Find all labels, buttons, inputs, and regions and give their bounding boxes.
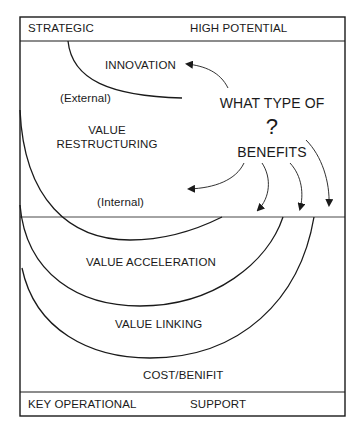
value-acceleration-label: VALUE ACCELERATION bbox=[86, 256, 216, 268]
high-potential-label: HIGH POTENTIAL bbox=[190, 22, 287, 34]
innovation-label: INNOVATION bbox=[105, 59, 176, 71]
external-label: (External) bbox=[60, 92, 111, 104]
arrow-to-innovation bbox=[187, 64, 228, 88]
key-operational-label: KEY OPERATIONAL bbox=[28, 398, 136, 410]
internal-label: (Internal) bbox=[97, 196, 144, 208]
question-line2: BENEFITS bbox=[237, 144, 306, 160]
arrow-to-value-linking bbox=[290, 163, 302, 209]
value-restructuring-label-line2: RESTRUCTURING bbox=[57, 138, 158, 150]
cost-benefit-label: COST/BENIFIT bbox=[143, 369, 223, 381]
arrow-to-cost-benefit bbox=[306, 140, 329, 205]
question-mark: ? bbox=[266, 114, 278, 140]
outer-frame bbox=[20, 17, 345, 416]
arrow-to-internal bbox=[189, 163, 244, 189]
value-linking-label: VALUE LINKING bbox=[115, 318, 202, 330]
support-label: SUPPORT bbox=[190, 398, 246, 410]
value-restructuring-label-line1: VALUE bbox=[88, 124, 125, 136]
arrow-to-value-acceleration bbox=[258, 163, 268, 210]
value-linking-curve bbox=[22, 217, 314, 358]
question-line1: WHAT TYPE OF bbox=[220, 95, 325, 111]
strategic-label: STRATEGIC bbox=[28, 22, 94, 34]
